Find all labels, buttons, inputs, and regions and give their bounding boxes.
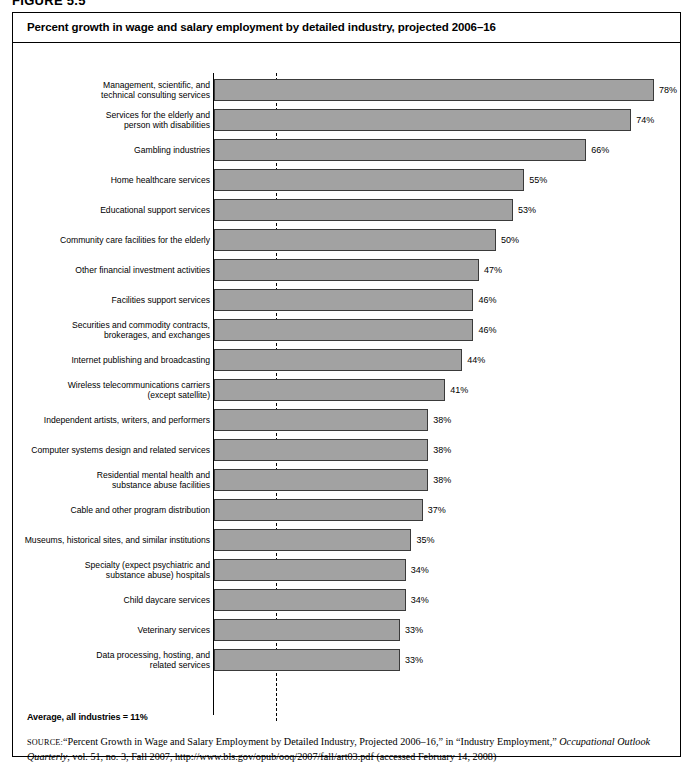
table-row: Residential mental health andsubstance a… (13, 469, 680, 499)
source-label: source: (27, 738, 63, 747)
bar (214, 469, 428, 491)
bar-category-label-line: Management, scientific, and (103, 80, 210, 90)
bar-category-label-line: (except satellite) (147, 390, 210, 400)
bar (214, 289, 473, 311)
bar-value-label: 50% (496, 235, 519, 245)
table-row: Internet publishing and broadcasting44% (13, 349, 680, 379)
bar-category-label-line: Residential mental health and (97, 470, 210, 480)
page-title: Percent growth in wage and salary employ… (27, 21, 496, 33)
bar-track: 33% (214, 619, 680, 641)
table-row: Data processing, hosting, andrelated ser… (13, 649, 680, 679)
bar-value-label: 33% (400, 625, 423, 635)
bar (214, 319, 473, 341)
bar-category-label: Other financial investment activities (0, 259, 210, 281)
bar-track: 34% (214, 589, 680, 611)
bar (214, 409, 428, 431)
bar-category-label: Gambling industries (0, 139, 210, 161)
bar-category-label-line: Educational support services (100, 205, 210, 215)
bar-category-label-line: Computer systems design and related serv… (31, 445, 210, 455)
bar (214, 229, 496, 251)
bar (214, 649, 400, 671)
table-row: Management, scientific, andtechnical con… (13, 79, 680, 109)
bar-value-label: 37% (423, 505, 446, 515)
bar-category-label-line: related services (150, 660, 210, 670)
table-row: Veterinary services33% (13, 619, 680, 649)
figure-title-bar: Percent growth in wage and salary employ… (13, 13, 680, 43)
bar-value-label: 78% (654, 85, 677, 95)
bar-category-label: Community care facilities for the elderl… (0, 229, 210, 251)
table-row: Community care facilities for the elderl… (13, 229, 680, 259)
bar-track: 74% (214, 109, 680, 131)
bar-track: 78% (214, 79, 680, 101)
table-row: Gambling industries66% (13, 139, 680, 169)
bar-category-label: Services for the elderly andperson with … (0, 109, 210, 131)
bar-value-label: 34% (406, 595, 429, 605)
bar-value-label: 44% (462, 355, 485, 365)
bar-category-label-line: Child daycare services (124, 595, 210, 605)
bar (214, 529, 411, 551)
bar-category-label-line: substance abuse facilities (112, 480, 210, 490)
table-row: Museums, historical sites, and similar i… (13, 529, 680, 559)
bar-category-label-line: Community care facilities for the elderl… (60, 235, 210, 245)
bar-category-label-line: Home healthcare services (111, 175, 210, 185)
table-row: Home healthcare services55% (13, 169, 680, 199)
bar-category-label-line: Gambling industries (134, 145, 210, 155)
bar-track: 44% (214, 349, 680, 371)
bar-track: 38% (214, 469, 680, 491)
bar-category-label: Home healthcare services (0, 169, 210, 191)
bar (214, 79, 654, 101)
bar (214, 349, 462, 371)
bar-value-label: 74% (631, 115, 654, 125)
bar-category-label-line: technical consulting services (101, 90, 210, 100)
bar-track: 53% (214, 199, 680, 221)
figure-number: FIGURE 5.5 (12, 0, 86, 7)
bar-value-label: 34% (406, 565, 429, 575)
table-row: Other financial investment activities47% (13, 259, 680, 289)
bar-value-label: 38% (428, 475, 451, 485)
bar-category-label: Computer systems design and related serv… (0, 439, 210, 461)
bar-category-label-line: Specialty (expect psychiatric and (85, 560, 210, 570)
chart-plot-area: Management, scientific, andtechnical con… (13, 43, 680, 703)
bar-track: 46% (214, 289, 680, 311)
bar-track: 47% (214, 259, 680, 281)
bar-value-label: 46% (473, 295, 496, 305)
bar (214, 109, 631, 131)
bar-category-label: Wireless telecommunications carriers(exc… (0, 379, 210, 401)
bar-value-label: 35% (411, 535, 434, 545)
bar-value-label: 47% (479, 265, 502, 275)
table-row: Child daycare services34% (13, 589, 680, 619)
table-row: Educational support services53% (13, 199, 680, 229)
bar-category-label-line: Facilities support services (112, 295, 210, 305)
bar-category-label: Educational support services (0, 199, 210, 221)
source-text-2: , vol. 51, no. 3, Fall 2007, http://www.… (67, 751, 496, 762)
bar-value-label: 46% (473, 325, 496, 335)
bar-category-label: Cable and other program distribution (0, 499, 210, 521)
bar (214, 589, 406, 611)
table-row: Specialty (expect psychiatric andsubstan… (13, 559, 680, 589)
bar-track: 35% (214, 529, 680, 551)
bar-category-label: Veterinary services (0, 619, 210, 641)
bar-category-label-line: Internet publishing and broadcasting (71, 355, 210, 365)
bar-category-label: Management, scientific, andtechnical con… (0, 79, 210, 101)
bar-category-label: Residential mental health andsubstance a… (0, 469, 210, 491)
bar-track: 41% (214, 379, 680, 401)
bar (214, 619, 400, 641)
bar-category-label: Independent artists, writers, and perfor… (0, 409, 210, 431)
bar (214, 199, 513, 221)
bar-category-label-line: substance abuse) hospitals (106, 570, 210, 580)
bar (214, 259, 479, 281)
bar-track: 38% (214, 409, 680, 431)
bar (214, 439, 428, 461)
bar-track: 33% (214, 649, 680, 671)
table-row: Securities and commodity contracts,broke… (13, 319, 680, 349)
average-note: Average, all industries = 11% (27, 712, 148, 722)
bar-category-label-line: Data processing, hosting, and (96, 650, 210, 660)
bar-category-label: Child daycare services (0, 589, 210, 611)
bar-category-label-line: Veterinary services (137, 625, 210, 635)
bar-category-label-line: Independent artists, writers, and perfor… (44, 415, 210, 425)
table-row: Independent artists, writers, and perfor… (13, 409, 680, 439)
table-row: Cable and other program distribution37% (13, 499, 680, 529)
bar (214, 169, 524, 191)
bar-track: 50% (214, 229, 680, 251)
bar-track: 55% (214, 169, 680, 191)
